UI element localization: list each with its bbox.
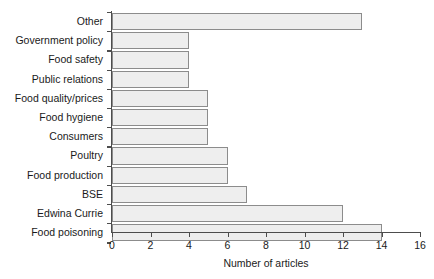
y-axis-tick-label: Other [0, 13, 108, 30]
y-axis-tick-label: Food safety [0, 51, 108, 68]
bar-row [112, 147, 420, 164]
x-axis-tick-mark [266, 233, 267, 237]
x-axis-tick-mark [189, 233, 190, 237]
y-axis-tick-label: Food poisoning [0, 224, 108, 241]
bar-row [112, 13, 420, 30]
y-axis-tick-label: Food hygiene [0, 109, 108, 126]
y-axis-tick-mark [107, 108, 111, 109]
bar-row [112, 205, 420, 222]
bar-row [112, 167, 420, 184]
bar [112, 186, 247, 203]
y-axis-tick-mark [107, 204, 111, 205]
x-axis-tick-label: 0 [109, 239, 115, 251]
bar [112, 90, 208, 107]
plot-area [112, 13, 420, 232]
bar-row [112, 128, 420, 145]
y-axis-tick-mark [107, 146, 111, 147]
bar [112, 205, 343, 222]
y-axis-tick-mark [107, 50, 111, 51]
y-axis-tick-mark [107, 127, 111, 128]
bar [112, 51, 189, 68]
x-axis-tick-mark [382, 233, 383, 237]
y-axis-tick-mark [107, 223, 111, 224]
x-axis-tick-mark [151, 233, 152, 237]
bar-chart: OtherGovernment policyFood safetyPublic … [0, 0, 434, 279]
x-axis-tick-label: 12 [337, 239, 349, 251]
bar [112, 128, 208, 145]
y-axis-tick-mark [107, 31, 111, 32]
x-axis-tick-label: 10 [299, 239, 311, 251]
bar [112, 71, 189, 88]
bar-row [112, 109, 420, 126]
x-axis-tick-label: 2 [148, 239, 154, 251]
y-axis-tick-label: Government policy [0, 32, 108, 49]
x-axis-tick-mark [343, 233, 344, 237]
y-axis-tick-label: Poultry [0, 147, 108, 164]
y-axis-tick-mark [107, 166, 111, 167]
x-axis-title: Number of articles [112, 257, 420, 269]
y-axis-category-labels: OtherGovernment policyFood safetyPublic … [0, 13, 108, 243]
bar-row [112, 51, 420, 68]
y-axis-tick-label: BSE [0, 186, 108, 203]
x-axis-tick-label: 6 [225, 239, 231, 251]
y-axis-tick-mark [107, 185, 111, 186]
bar [112, 32, 189, 49]
bar-row [112, 90, 420, 107]
bar [112, 147, 228, 164]
x-axis-tick-label: 14 [376, 239, 388, 251]
x-axis-tick-mark [420, 233, 421, 237]
bar [112, 13, 362, 30]
y-axis-tick-label: Food production [0, 167, 108, 184]
x-axis-tick-label: 4 [186, 239, 192, 251]
bar-series [112, 13, 420, 243]
y-axis-tick-mark [107, 70, 111, 71]
x-axis-tick-mark [112, 233, 113, 237]
y-axis-tick-label: Edwina Currie [0, 205, 108, 222]
x-axis-tick-mark [228, 233, 229, 237]
x-axis-tick-label: 16 [414, 239, 426, 251]
bar-row [112, 71, 420, 88]
y-axis-tick-label: Consumers [0, 128, 108, 145]
y-axis-tick-mark [107, 12, 111, 13]
x-axis-tick-label: 8 [263, 239, 269, 251]
x-axis-tick-mark [305, 233, 306, 237]
y-axis-tick-label: Public relations [0, 71, 108, 88]
bar [112, 109, 208, 126]
y-axis-tick-label: Food quality/prices [0, 90, 108, 107]
bar [112, 167, 228, 184]
bar-row [112, 32, 420, 49]
bar-row [112, 186, 420, 203]
y-axis-tick-mark [107, 89, 111, 90]
